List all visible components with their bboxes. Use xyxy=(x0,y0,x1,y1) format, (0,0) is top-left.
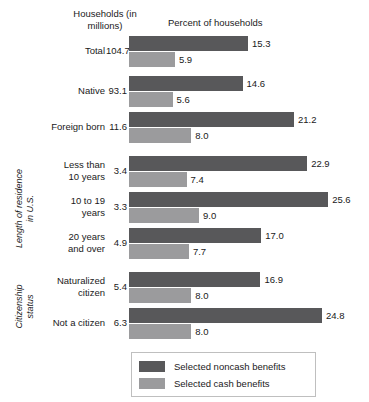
group-label-1: Length of residence in U.S. xyxy=(14,157,35,261)
bar-cash-fill xyxy=(129,52,175,67)
legend-label: Selected cash benefits xyxy=(174,378,270,389)
chart-row: Not a citizen6.324.88.0 xyxy=(0,308,369,340)
bar-cash-value-label: 9.0 xyxy=(203,210,216,222)
bar-cash-value-label: 8.0 xyxy=(195,290,208,302)
bar-noncash-value-label: 17.0 xyxy=(265,230,284,242)
bar-chart: Households (in millions) Percent of hous… xyxy=(0,0,369,402)
bar-noncash-fill xyxy=(129,156,307,171)
bar-noncash-fill xyxy=(129,36,248,51)
bar-noncash-value-label: 15.3 xyxy=(252,38,271,50)
chart-row: Total104.715.35.9 xyxy=(0,36,369,68)
bar-cash-fill xyxy=(129,92,173,107)
chart-row: Foreign born11.621.28.0 xyxy=(0,112,369,144)
bar-noncash-value-label: 25.6 xyxy=(332,194,351,206)
row-household-count: 11.6 xyxy=(106,121,127,133)
legend-label: Selected noncash benefits xyxy=(174,361,285,372)
bar-noncash-value-label: 16.9 xyxy=(264,274,283,286)
row-category-label: Foreign born xyxy=(19,121,105,133)
bar-cash-value-label: 7.7 xyxy=(193,246,206,258)
bar-cash-fill xyxy=(129,324,191,339)
row-household-count: 3.3 xyxy=(106,201,127,213)
bar-noncash-fill xyxy=(129,228,261,243)
row-household-count: 3.4 xyxy=(106,165,127,177)
bar-noncash-value-label: 21.2 xyxy=(298,114,317,126)
bar-cash-value-label: 5.6 xyxy=(177,94,190,106)
row-household-count: 5.4 xyxy=(106,281,127,293)
group-label-2: Citizenship status xyxy=(14,273,35,341)
row-household-count: 6.3 xyxy=(106,317,127,329)
legend-swatch-icon xyxy=(139,378,165,389)
legend-item[interactable]: Selected noncash benefits xyxy=(139,359,307,373)
chart-legend: Selected noncash benefitsSelected cash b… xyxy=(131,352,316,397)
bar-cash-value-label: 8.0 xyxy=(195,326,208,338)
bar-cash-fill xyxy=(129,208,199,223)
chart-row: Native93.114.65.6 xyxy=(0,76,369,108)
chart-row: 20 years and over4.917.07.7 xyxy=(0,228,369,260)
row-household-count: 4.9 xyxy=(106,237,127,249)
bar-noncash-value-label: 22.9 xyxy=(311,158,330,170)
bar-noncash-fill xyxy=(129,192,328,207)
row-household-count: 93.1 xyxy=(106,85,127,97)
bar-cash-fill xyxy=(129,172,187,187)
legend-swatch-icon xyxy=(139,361,165,372)
bar-cash-fill xyxy=(129,244,189,259)
percent-column-header: Percent of households xyxy=(168,17,263,29)
bar-noncash-fill xyxy=(129,112,294,127)
chart-row: Naturalized citizen5.416.98.0 xyxy=(0,272,369,304)
bar-cash-fill xyxy=(129,128,191,143)
chart-row: 10 to 19 years3.325.69.0 xyxy=(0,192,369,224)
bar-noncash-value-label: 24.8 xyxy=(326,310,345,322)
row-category-label: Native xyxy=(19,85,105,97)
households-column-header: Households (in millions) xyxy=(60,8,150,31)
bar-cash-value-label: 7.4 xyxy=(191,174,204,186)
row-household-count: 104.7 xyxy=(106,45,127,57)
chart-row: Less than 10 years3.422.97.4 xyxy=(0,156,369,188)
bar-noncash-fill xyxy=(129,308,322,323)
bar-noncash-value-label: 14.6 xyxy=(247,78,266,90)
row-category-label: Total xyxy=(19,45,105,57)
bar-cash-value-label: 8.0 xyxy=(195,130,208,142)
legend-item[interactable]: Selected cash benefits xyxy=(139,376,307,390)
bar-cash-value-label: 5.9 xyxy=(179,54,192,66)
bar-noncash-fill xyxy=(129,272,260,287)
bar-noncash-fill xyxy=(129,76,243,91)
bar-cash-fill xyxy=(129,288,191,303)
